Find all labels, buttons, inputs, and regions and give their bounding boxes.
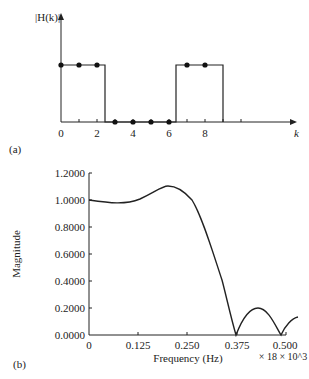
a-envelope bbox=[61, 65, 223, 122]
b-ytick: 1.0000 bbox=[55, 194, 86, 206]
a-xtick: 8 bbox=[202, 127, 208, 139]
a-samples bbox=[58, 62, 207, 124]
a-xtick: 6 bbox=[166, 127, 172, 139]
b-ylabel: Magnitude bbox=[10, 230, 22, 278]
figure: |H(k)| k 0 2 4 6 8 (a) 1.2000 1.0000 0.8… bbox=[0, 0, 309, 379]
b-panel-label: (b) bbox=[13, 358, 26, 371]
b-xtick: 0.250 bbox=[175, 339, 200, 351]
b-ytick: 0.6000 bbox=[55, 248, 86, 260]
a-xtick: 4 bbox=[130, 127, 136, 139]
a-panel-label: (a) bbox=[9, 143, 22, 156]
a-xtick: 2 bbox=[94, 127, 100, 139]
a-xtick: 0 bbox=[58, 127, 64, 139]
b-ytick: 0.0000 bbox=[55, 329, 86, 341]
b-xtick: 0.125 bbox=[126, 339, 151, 351]
a-ylabel: |H(k)| bbox=[35, 11, 60, 24]
panel-b: 1.2000 1.0000 0.8000 0.6000 0.4000 0.200… bbox=[10, 167, 307, 371]
b-ytick: 0.8000 bbox=[55, 221, 86, 233]
b-x-scale-note: × 18 × 10^3 bbox=[259, 351, 307, 362]
b-xlabel: Frequency (Hz) bbox=[153, 352, 223, 365]
b-xtick: 0.375 bbox=[225, 339, 250, 351]
b-xtick: 0 bbox=[86, 339, 92, 351]
a-x-arrow-icon bbox=[290, 119, 297, 125]
b-magnitude-curve bbox=[89, 186, 298, 335]
b-ytick: 0.4000 bbox=[55, 275, 86, 287]
a-xlabel: k bbox=[294, 127, 300, 139]
b-xtick: 0.500 bbox=[273, 339, 298, 351]
b-ytick: 1.2000 bbox=[55, 167, 86, 179]
b-ytick: 0.2000 bbox=[55, 302, 86, 314]
panel-a: |H(k)| k 0 2 4 6 8 (a) bbox=[9, 11, 300, 156]
